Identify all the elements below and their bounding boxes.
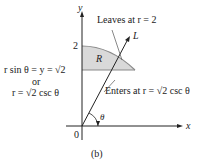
left-equation-2: r = √2 csc θ: [12, 87, 59, 98]
angle-arc: [89, 113, 98, 126]
x-axis-label: x: [186, 120, 190, 131]
leaves-annotation: Leaves at r = 2: [97, 14, 157, 25]
left-or: or: [32, 76, 40, 87]
region-label: R: [96, 53, 102, 64]
ray-l-arrow: [125, 36, 130, 42]
x-axis-arrow: [177, 124, 183, 128]
origin-label: 0: [74, 129, 79, 140]
line-label: L: [133, 30, 139, 41]
y-axis-label: y: [78, 2, 82, 13]
region-r: [82, 46, 135, 70]
y-tick-2: 2: [73, 40, 78, 51]
angle-label: θ: [100, 112, 104, 123]
enters-annotation: Enters at r = √2 csc θ: [105, 85, 190, 96]
left-equation-1: r sin θ = y = √2: [4, 64, 66, 75]
caption: (b): [91, 148, 103, 159]
